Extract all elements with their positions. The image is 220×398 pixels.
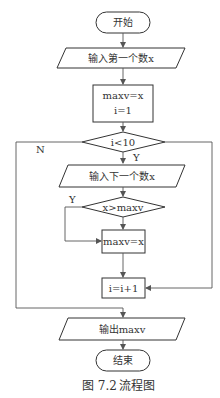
input-next-label: 输入下一个数x <box>89 170 155 182</box>
flowchart: 开始 输入第一个数x maxv=x i=1 i<10 Y N 输入下一个数x x… <box>0 0 220 398</box>
loop-no-label: N <box>36 144 45 155</box>
connector-loop-back <box>146 142 212 288</box>
loop-condition-diamond: i<10 <box>82 132 165 152</box>
loop-yes-label: Y <box>132 152 140 163</box>
caption-title: 流程图 <box>119 378 155 393</box>
compare-yes-label: Y <box>68 194 76 205</box>
input-next-parallelogram: 输入下一个数x <box>59 165 185 187</box>
input-first-label: 输入第一个数x <box>88 52 154 64</box>
end-terminal: 结束 <box>96 350 150 371</box>
assign-process-box: maxv=x <box>102 230 145 253</box>
input-first-parallelogram: 输入第一个数x <box>57 48 185 68</box>
increment-label: i=i+1 <box>109 283 139 294</box>
compare-condition-diamond: x>maxv <box>82 197 165 217</box>
init-line2-label: i=1 <box>114 105 132 116</box>
init-line1-label: maxv=x <box>103 90 144 101</box>
loop-condition-label: i<10 <box>111 137 135 148</box>
init-process-box: maxv=x i=1 <box>93 85 153 122</box>
assign-label: maxv=x <box>103 236 144 247</box>
caption-figure-number: 图 7.2 <box>82 379 117 393</box>
end-label: 结束 <box>113 354 133 366</box>
output-label: 输出maxv <box>99 323 146 335</box>
connector-compare-yes <box>65 207 101 241</box>
output-parallelogram: 输出maxv <box>59 318 185 340</box>
start-label: 开始 <box>113 16 133 28</box>
compare-condition-label: x>maxv <box>103 202 144 213</box>
start-terminal: 开始 <box>96 12 150 33</box>
increment-process-box: i=i+1 <box>102 278 145 298</box>
